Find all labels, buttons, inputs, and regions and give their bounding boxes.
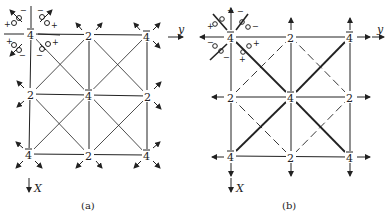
node-b-7: 2 <box>287 152 294 165</box>
svg-text:−: − <box>252 22 259 31</box>
node-b-8: 4 <box>346 152 353 165</box>
svg-text:−: − <box>207 38 214 47</box>
node-a-8: 4 <box>143 150 150 163</box>
svg-text:+: + <box>253 39 260 48</box>
axis-x-label-b: X <box>235 182 245 195</box>
axis-y-label-a: y <box>177 23 185 36</box>
axis-y-label-b: y <box>376 23 384 36</box>
node-b-1: 2 <box>287 32 294 45</box>
node-a-0: 4 <box>27 29 34 42</box>
node-a-5: 2 <box>144 91 151 104</box>
node-a-1: 2 <box>85 30 92 43</box>
caption-b: (b) <box>282 200 296 211</box>
node-b-3: 2 <box>227 92 234 105</box>
caption-a: (a) <box>81 200 95 211</box>
node-b-5: 2 <box>346 92 353 105</box>
svg-text:+: + <box>239 55 246 64</box>
node-a-2: 4 <box>143 31 150 44</box>
node-a-6: 4 <box>25 149 32 162</box>
symmetry-diagram: − + − + + − − + 4 2 4 2 4 2 4 2 4 y X (a… <box>0 0 386 213</box>
svg-text:−: − <box>19 51 26 60</box>
svg-text:−: − <box>20 6 27 15</box>
node-a-4: 4 <box>85 90 92 103</box>
svg-text:+: + <box>6 37 13 46</box>
node-b-6: 4 <box>227 151 234 164</box>
svg-text:−: − <box>223 53 230 62</box>
svg-text:+: + <box>52 38 59 47</box>
svg-text:−: − <box>36 51 43 60</box>
svg-text:−: − <box>237 7 244 16</box>
svg-text:+: + <box>4 20 11 29</box>
svg-text:+: + <box>227 6 234 15</box>
svg-text:+: + <box>207 22 214 31</box>
axis-x-label-a: X <box>33 182 43 195</box>
svg-text:−: − <box>37 6 44 15</box>
node-a-3: 2 <box>27 89 34 102</box>
node-a-7: 2 <box>85 150 92 163</box>
axis-arrows-a <box>29 37 183 192</box>
svg-text:+: + <box>51 21 58 30</box>
node-b-0: 4 <box>227 32 234 45</box>
node-b-2: 4 <box>346 32 353 45</box>
node-b-4: 4 <box>287 92 294 105</box>
